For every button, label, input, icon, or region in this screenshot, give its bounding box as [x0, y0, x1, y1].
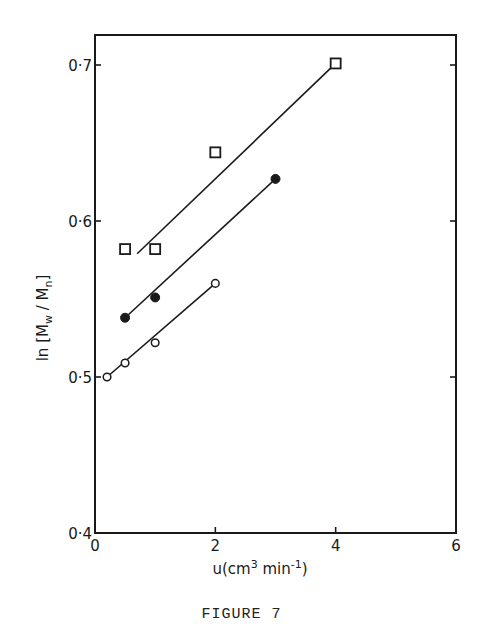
filled-circle-marker	[121, 313, 130, 322]
square-marker	[331, 58, 341, 68]
x-tick-label: 2	[211, 537, 221, 555]
square-marker	[210, 147, 220, 157]
square-marker	[150, 244, 160, 254]
data-markers	[103, 58, 340, 380]
y-tick-label: 0·5	[68, 369, 92, 387]
x-axis-label: u(cm3 min-1)	[212, 558, 307, 578]
svg-text:ln [Mw / Mn]: ln [Mw / Mn]	[34, 275, 55, 362]
square-marker	[120, 244, 130, 254]
open-circle-marker	[103, 373, 111, 381]
open-circle-marker	[121, 359, 129, 367]
x-tick-label: 4	[331, 537, 341, 555]
plot-border	[95, 35, 456, 533]
filled-circle-marker	[271, 174, 280, 183]
chart: 02460·40·50·60·7 u(cm3 min-1) ln [Mw / M…	[0, 0, 483, 644]
figure-caption: FIGURE 7	[0, 606, 483, 623]
open-circle-marker	[212, 280, 220, 288]
open-circle-marker	[151, 339, 159, 347]
y-tick-label: 0·4	[68, 525, 92, 543]
fit-lines	[107, 63, 336, 377]
x-tick-label: 6	[451, 537, 461, 555]
fit-line	[137, 63, 336, 253]
y-axis-label: ln [Mw / Mn]	[34, 275, 55, 362]
filled-circle-marker	[151, 293, 160, 302]
plot-frame	[95, 35, 456, 533]
y-tick-label: 0·6	[68, 213, 92, 231]
y-tick-label: 0·7	[68, 57, 92, 75]
axis-ticks	[95, 65, 456, 533]
